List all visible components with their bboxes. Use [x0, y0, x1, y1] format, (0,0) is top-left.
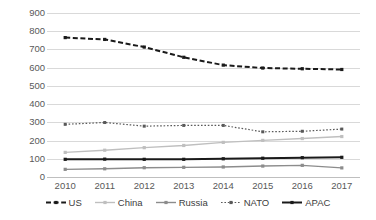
data-point-marker — [64, 36, 67, 39]
data-point-marker — [340, 68, 343, 71]
series-nato — [64, 121, 344, 133]
data-point-marker — [143, 45, 146, 48]
data-point-marker — [261, 130, 264, 133]
data-point-marker — [64, 158, 67, 161]
legend-swatch-icon — [46, 198, 66, 207]
series-line — [65, 165, 342, 169]
data-point-marker — [301, 164, 304, 167]
data-point-marker — [261, 139, 264, 142]
data-point-marker — [143, 158, 146, 161]
data-point-marker — [340, 166, 343, 169]
series-line — [65, 38, 342, 70]
data-point-marker — [340, 128, 343, 131]
legend-item-apac[interactable]: APAC — [282, 198, 330, 208]
legend-item-label: APAC — [305, 198, 330, 208]
x-axis-tick-label: 2017 — [317, 181, 367, 191]
legend-swatch-icon — [95, 198, 115, 207]
line-chart: 0100200300400500600700800900 20102011201… — [0, 0, 376, 220]
y-axis-tick-label: 100 — [5, 154, 45, 164]
data-point-marker — [222, 157, 225, 160]
chart-legend: USChinaRussiaNATOAPAC — [0, 198, 376, 208]
data-point-marker — [182, 166, 185, 169]
data-point-marker — [182, 56, 185, 59]
y-axis-tick-label: 600 — [5, 63, 45, 73]
data-point-marker — [182, 144, 185, 147]
plot-area — [47, 13, 360, 177]
data-point-marker — [340, 135, 343, 138]
data-point-marker — [261, 66, 264, 69]
series-layer — [47, 13, 360, 177]
data-point-marker — [301, 130, 304, 133]
data-point-marker — [143, 166, 146, 169]
y-axis-tick-label: 900 — [5, 8, 45, 18]
y-axis-tick-label: 0 — [5, 172, 45, 182]
legend-item-label: US — [69, 198, 82, 208]
data-point-marker — [64, 168, 67, 171]
legend-swatch-icon — [221, 198, 241, 207]
data-point-marker — [222, 165, 225, 168]
y-axis-tick-label: 200 — [5, 136, 45, 146]
series-line — [65, 137, 342, 153]
y-axis-tick-label: 500 — [5, 81, 45, 91]
series-china — [64, 135, 344, 154]
y-axis-tick-label: 300 — [5, 117, 45, 127]
data-point-marker — [143, 146, 146, 149]
data-point-marker — [222, 124, 225, 127]
data-point-marker — [182, 124, 185, 127]
legend-item-china[interactable]: China — [95, 198, 143, 208]
data-point-marker — [222, 64, 225, 67]
data-point-marker — [64, 151, 67, 154]
legend-item-us[interactable]: US — [46, 198, 82, 208]
y-axis-tick-label: 700 — [5, 44, 45, 54]
data-point-marker — [103, 158, 106, 161]
legend-item-russia[interactable]: Russia — [156, 198, 208, 208]
data-point-marker — [103, 121, 106, 124]
data-point-marker — [301, 156, 304, 159]
y-axis-tick-label: 400 — [5, 99, 45, 109]
data-point-marker — [340, 156, 343, 159]
legend-item-label: China — [118, 198, 143, 208]
series-line — [65, 157, 342, 159]
series-russia — [64, 164, 344, 171]
data-point-marker — [103, 167, 106, 170]
series-us — [64, 36, 344, 71]
series-apac — [64, 156, 344, 161]
data-point-marker — [301, 67, 304, 70]
legend-item-nato[interactable]: NATO — [221, 198, 270, 208]
series-line — [65, 123, 342, 132]
data-point-marker — [103, 149, 106, 152]
data-point-marker — [103, 38, 106, 41]
gridline-0 — [47, 177, 360, 178]
data-point-marker — [222, 141, 225, 144]
data-point-marker — [143, 125, 146, 128]
legend-item-label: NATO — [244, 198, 270, 208]
data-point-marker — [64, 123, 67, 126]
legend-item-label: Russia — [179, 198, 208, 208]
data-point-marker — [182, 158, 185, 161]
data-point-marker — [301, 137, 304, 140]
data-point-marker — [261, 164, 264, 167]
legend-swatch-icon — [282, 198, 302, 207]
y-axis-tick-label: 800 — [5, 26, 45, 36]
data-point-marker — [261, 157, 264, 160]
legend-swatch-icon — [156, 198, 176, 207]
